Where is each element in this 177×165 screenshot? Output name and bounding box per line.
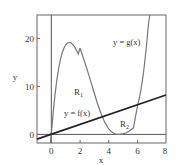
y-axis-label: y [13,72,18,82]
y-tick-10: 10 [25,82,35,92]
r1-label: R1 [74,87,83,98]
plot-frame [37,15,166,143]
x-axis-label: x [99,155,104,165]
f-line [37,95,166,139]
g-label: y = g(x) [113,37,141,47]
x-tick-8: 8 [163,146,168,156]
y-tick-20: 20 [25,34,35,44]
x-tick-4: 4 [107,146,112,156]
f-label: y = f(x) [64,108,90,118]
x-tick-0: 0 [49,146,54,156]
chart: 0 2 4 6 8 0 10 20 x y y = g(x) y = f(x) … [0,0,177,165]
g-curve-right [80,15,150,134]
r2-label: R2 [120,119,129,130]
x-tick-2: 2 [78,146,83,156]
y-tick-0: 0 [30,130,35,140]
x-tick-6: 6 [135,146,140,156]
